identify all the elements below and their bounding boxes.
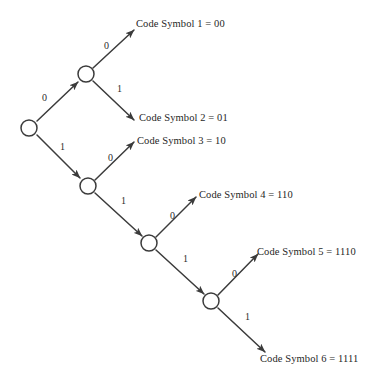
edge-bit-label: 0 <box>104 41 109 51</box>
code-tree-diagram: 0101010101 Code Symbol 1 = 00Code Symbol… <box>0 0 384 382</box>
tree-edge-1 <box>218 308 265 352</box>
nodes-group <box>21 66 219 309</box>
edge-bit-label: 1 <box>117 84 122 94</box>
node-11 <box>141 235 157 251</box>
edge-bit-label: 1 <box>245 312 250 322</box>
tree-edge-0 <box>93 30 134 68</box>
edge-bit-label: 0 <box>232 269 237 279</box>
code-symbol-label: Code Symbol 1 = 00 <box>136 19 225 30</box>
tree-edge-0 <box>95 142 134 180</box>
node-1 <box>80 178 96 194</box>
edge-bit-label: 1 <box>60 142 65 152</box>
edge-bit-label: 1 <box>121 196 126 206</box>
tree-edge-1 <box>37 135 80 178</box>
edge-bit-label: 0 <box>108 153 113 163</box>
node-111 <box>203 293 219 309</box>
edge-bit-label: 0 <box>170 211 175 221</box>
tree-edge-0 <box>156 197 196 237</box>
node-0 <box>78 66 94 82</box>
tree-edge-1 <box>156 250 204 294</box>
edge-bit-label: 1 <box>183 254 188 264</box>
code-symbol-label: Code Symbol 3 = 10 <box>137 136 226 147</box>
tree-edge-1 <box>95 193 142 236</box>
tree-edge-0 <box>218 254 258 295</box>
code-symbol-label: Code Symbol 4 = 110 <box>199 190 293 201</box>
tree-edge-1 <box>93 81 134 120</box>
code-symbol-label: Code Symbol 5 = 1110 <box>257 247 356 258</box>
tree-graphics <box>0 0 384 382</box>
edge-bit-label: 0 <box>42 93 47 103</box>
code-symbol-label: Code Symbol 6 = 1111 <box>260 354 358 365</box>
code-symbol-label: Code Symbol 2 = 01 <box>139 113 228 124</box>
root-node <box>21 120 37 136</box>
